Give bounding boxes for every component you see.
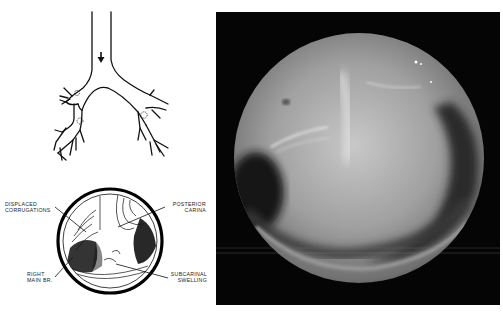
label-displaced-corrugations: DISPLACEDCORRUGATIONS (5, 201, 51, 213)
bronchoscopic-photo (216, 12, 500, 305)
label-subcarinal-swelling: SUBCARINALSWELLING (162, 271, 207, 283)
bronchial-tree-diagram (0, 0, 210, 170)
bronchoscopic-photo-image (216, 12, 500, 305)
endoscopic-circle-drawing (0, 170, 210, 313)
endoscopic-view-drawing: DISPLACEDCORRUGATIONS POSTERIORCARINA RI… (0, 170, 210, 313)
down-arrow-icon (98, 52, 105, 63)
label-posterior-carina: POSTERIORCARINA (166, 201, 206, 213)
label-right-main-bronchus: RIGHTMAIN BR. (27, 271, 52, 283)
bronchial-tree-drawing (0, 0, 210, 170)
